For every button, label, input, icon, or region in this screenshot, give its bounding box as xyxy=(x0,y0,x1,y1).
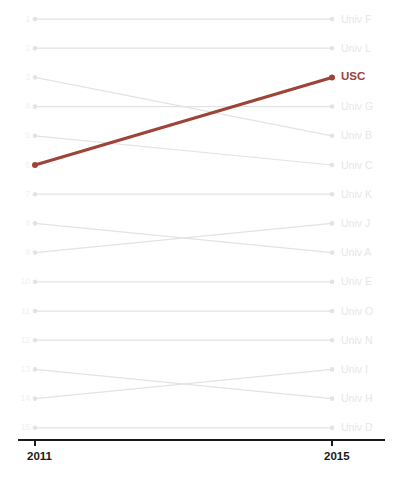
rank-label-10: 10 xyxy=(10,277,30,286)
series-univ-f[interactable] xyxy=(33,17,335,22)
series-label-univ-l[interactable]: Univ L xyxy=(341,43,371,54)
series-univ-h[interactable] xyxy=(33,367,335,401)
rank-label-9: 9 xyxy=(10,248,30,257)
series-univ-k[interactable] xyxy=(33,192,335,197)
rank-label-7: 7 xyxy=(10,190,30,199)
series-univ-a[interactable] xyxy=(33,221,335,255)
series-label-univ-e[interactable]: Univ E xyxy=(341,276,372,287)
series-univ-c[interactable] xyxy=(33,134,335,168)
rank-label-3: 3 xyxy=(10,73,30,82)
rank-label-8: 8 xyxy=(10,219,30,228)
rank-label-15: 15 xyxy=(10,423,30,432)
series-point-end[interactable] xyxy=(330,396,335,401)
rank-label-4: 4 xyxy=(10,102,30,111)
series-label-univ-d[interactable]: Univ D xyxy=(341,422,373,433)
series-univ-l[interactable] xyxy=(33,46,335,51)
series-label-univ-c[interactable]: Univ C xyxy=(341,160,373,171)
series-label-univ-a[interactable]: Univ A xyxy=(341,247,371,258)
series-point-start[interactable] xyxy=(33,367,38,372)
rank-label-6: 6 xyxy=(10,161,30,170)
series-point-end[interactable] xyxy=(330,250,335,255)
series-point-end[interactable] xyxy=(330,309,335,314)
series-point-start[interactable] xyxy=(33,17,38,22)
series-point-start[interactable] xyxy=(33,309,38,314)
rank-label-13: 13 xyxy=(10,365,30,374)
series-point-start[interactable] xyxy=(33,104,38,109)
series-point-end[interactable] xyxy=(330,221,335,226)
series-label-univ-g[interactable]: Univ G xyxy=(341,101,373,112)
x-axis-label-start: 2011 xyxy=(27,451,52,463)
series-point-start[interactable] xyxy=(33,221,38,226)
series-point-end[interactable] xyxy=(330,367,335,372)
series-univ-n[interactable] xyxy=(33,338,335,343)
rank-label-2: 2 xyxy=(10,44,30,53)
series-point-start[interactable] xyxy=(33,75,38,80)
series-point-end[interactable] xyxy=(330,426,335,431)
series-label-univ-i[interactable]: Univ I xyxy=(341,364,368,375)
x-axis-label-end: 2015 xyxy=(324,451,350,463)
series-point-start[interactable] xyxy=(32,162,38,168)
series-point-end[interactable] xyxy=(330,338,335,343)
series-label-univ-f[interactable]: Univ F xyxy=(341,14,371,25)
rank-label-5: 5 xyxy=(10,131,30,140)
series-point-start[interactable] xyxy=(33,134,38,139)
series-univ-g[interactable] xyxy=(33,104,335,109)
series-point-end[interactable] xyxy=(330,163,335,168)
series-usc[interactable] xyxy=(32,74,335,168)
series-point-end[interactable] xyxy=(330,17,335,22)
rank-label-1: 1 xyxy=(10,15,30,24)
series-point-end[interactable] xyxy=(330,192,335,197)
series-point-end[interactable] xyxy=(329,74,335,80)
series-point-start[interactable] xyxy=(33,396,38,401)
rank-label-12: 12 xyxy=(10,336,30,345)
x-axis-layer xyxy=(18,440,385,446)
series-point-end[interactable] xyxy=(330,134,335,139)
series-point-start[interactable] xyxy=(33,192,38,197)
series-univ-o[interactable] xyxy=(33,309,335,314)
series-label-univ-k[interactable]: Univ K xyxy=(341,189,372,200)
series-point-end[interactable] xyxy=(330,280,335,285)
series-univ-e[interactable] xyxy=(33,280,335,285)
rank-label-14: 14 xyxy=(10,394,30,403)
series-label-univ-j[interactable]: Univ J xyxy=(341,218,370,229)
series-point-start[interactable] xyxy=(33,46,38,51)
rank-label-11: 11 xyxy=(10,307,30,316)
series-point-start[interactable] xyxy=(33,250,38,255)
series-line[interactable] xyxy=(35,77,332,165)
series-label-usc[interactable]: USC xyxy=(341,71,365,83)
series-univ-d[interactable] xyxy=(33,426,335,431)
series-point-end[interactable] xyxy=(330,46,335,51)
series-point-end[interactable] xyxy=(330,104,335,109)
series-label-univ-n[interactable]: Univ N xyxy=(341,335,373,346)
series-label-univ-h[interactable]: Univ H xyxy=(341,393,373,404)
series-layer xyxy=(32,17,335,430)
series-point-start[interactable] xyxy=(33,338,38,343)
bump-chart: 123456789101112131415 Univ FUniv LUniv B… xyxy=(0,0,403,478)
series-point-start[interactable] xyxy=(33,426,38,431)
series-point-start[interactable] xyxy=(33,280,38,285)
series-label-univ-b[interactable]: Univ B xyxy=(341,130,372,141)
series-label-univ-o[interactable]: Univ O xyxy=(341,306,373,317)
